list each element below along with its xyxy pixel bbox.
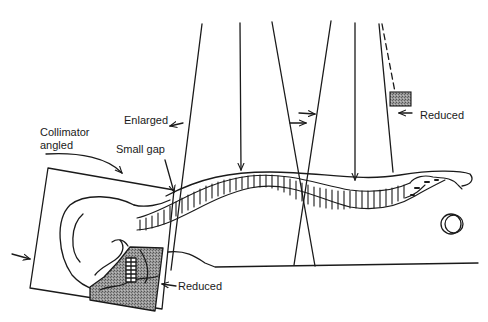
small-gap-pointer bbox=[165, 160, 174, 192]
gonad-shield-icon bbox=[441, 214, 463, 234]
shield-block bbox=[390, 92, 411, 106]
label-reduced-top: Reduced bbox=[420, 109, 464, 122]
label-collimator: Collimator bbox=[40, 126, 90, 139]
diagram-drawing bbox=[0, 0, 488, 322]
beam-3-crossing bbox=[272, 21, 331, 266]
label-enlarged: Enlarged bbox=[124, 114, 168, 127]
beam-1 bbox=[170, 24, 202, 270]
label-small-gap: Small gap bbox=[116, 143, 165, 156]
spine bbox=[137, 175, 462, 230]
label-reduced-bottom: Reduced bbox=[178, 280, 222, 293]
diagram-canvas: Enlarged Collimator angled Small gap Red… bbox=[0, 0, 488, 322]
label-angled: angled bbox=[40, 139, 73, 152]
shield-region bbox=[90, 247, 163, 311]
beam-2-central-ray bbox=[240, 23, 241, 170]
